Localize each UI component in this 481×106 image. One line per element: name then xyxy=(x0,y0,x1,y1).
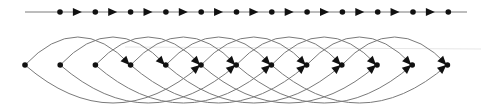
upper-arc-edge xyxy=(95,37,201,65)
graph-node xyxy=(163,9,169,15)
upper-arc-edge xyxy=(201,37,307,65)
upper-arc-edge xyxy=(342,37,448,65)
graph-node xyxy=(374,62,380,68)
graph-node xyxy=(163,62,169,68)
arrow-right-icon xyxy=(285,8,294,16)
arrow-right-icon xyxy=(143,8,152,16)
graph-node xyxy=(304,62,310,68)
graph-node xyxy=(198,62,204,68)
graph-node xyxy=(22,62,28,68)
upper-arc-edge xyxy=(236,37,342,65)
graph-node xyxy=(445,62,451,68)
arrow-right-icon xyxy=(249,8,258,16)
arrow-right-icon xyxy=(214,8,223,16)
arrow-right-icon xyxy=(108,8,117,16)
graph-node xyxy=(198,9,204,15)
upper-arc-edge xyxy=(307,37,413,65)
graph-node xyxy=(269,62,275,68)
arrow-right-icon xyxy=(355,8,364,16)
graph-node xyxy=(410,9,416,15)
upper-arc-edge xyxy=(166,37,272,65)
graph-node xyxy=(128,9,134,15)
graph-node xyxy=(446,9,452,15)
upper-arc-edge xyxy=(60,37,166,65)
graph-node xyxy=(409,62,415,68)
graph-node xyxy=(340,9,346,15)
arrow-right-icon xyxy=(73,8,82,16)
upper-arc-edge xyxy=(25,37,131,65)
graph-node xyxy=(269,9,275,15)
graph-node xyxy=(93,9,99,15)
bottom-arc-graph xyxy=(22,37,450,103)
graph-node xyxy=(93,62,99,68)
upper-arc-edge xyxy=(271,37,377,65)
arrow-right-icon xyxy=(179,8,188,16)
graph-node xyxy=(234,9,240,15)
top-chain-graph xyxy=(25,8,467,16)
graph-diagram xyxy=(0,0,481,106)
graph-node xyxy=(339,62,345,68)
graph-node xyxy=(57,9,63,15)
graph-node xyxy=(128,62,134,68)
arrow-right-icon xyxy=(426,8,435,16)
graph-node xyxy=(375,9,381,15)
arrow-right-icon xyxy=(320,8,329,16)
graph-node xyxy=(233,62,239,68)
graph-node xyxy=(304,9,310,15)
upper-arc-edge xyxy=(131,37,237,65)
arrow-right-icon xyxy=(391,8,400,16)
graph-node xyxy=(57,62,63,68)
